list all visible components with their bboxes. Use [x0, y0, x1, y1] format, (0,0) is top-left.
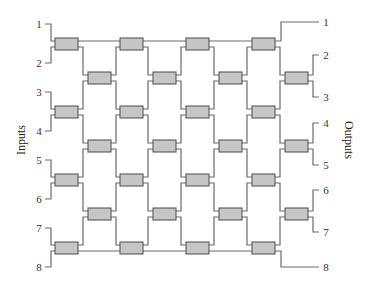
link-wire — [78, 183, 88, 211]
switching-network-diagram: 1234567812345678 Inputs Outputs — [0, 0, 373, 291]
input-wire — [45, 251, 55, 267]
link-wire — [111, 115, 120, 143]
output-wire — [308, 81, 319, 97]
link-wire — [111, 217, 120, 245]
input-wire — [45, 183, 55, 199]
link-wire — [209, 115, 219, 143]
switch-box — [285, 208, 308, 220]
input-wire — [45, 160, 55, 177]
wires — [45, 22, 319, 267]
output-label: 1 — [323, 16, 329, 28]
output-wire — [308, 217, 319, 232]
output-wire — [275, 22, 319, 41]
output-label: 4 — [323, 117, 329, 129]
input-wire — [45, 24, 55, 41]
input-wire — [45, 115, 55, 131]
link-wire — [209, 149, 219, 177]
input-wire — [45, 92, 55, 109]
output-label: 7 — [323, 226, 329, 238]
link-wire — [143, 217, 153, 245]
link-wire — [242, 81, 252, 109]
switch-box — [252, 174, 275, 186]
switch-box — [186, 38, 209, 50]
switch-box — [186, 242, 209, 254]
output-wire — [275, 251, 319, 267]
output-label: 3 — [323, 91, 329, 103]
link-wire — [143, 115, 153, 143]
link-wire — [242, 183, 252, 211]
switch-box — [88, 208, 111, 220]
link-wire — [143, 47, 153, 75]
link-wire — [242, 115, 252, 143]
switch-box — [55, 38, 78, 50]
link-wire — [176, 115, 186, 143]
link-wire — [78, 115, 88, 143]
link-wire — [275, 81, 285, 109]
outputs-axis-label: Outputs — [342, 121, 356, 159]
link-wire — [176, 81, 186, 109]
input-label: 5 — [36, 154, 42, 166]
switch-box — [88, 72, 111, 84]
input-label: 7 — [36, 222, 42, 234]
switch-box — [55, 242, 78, 254]
link-wire — [242, 217, 252, 245]
switch-box — [88, 140, 111, 152]
input-label: 1 — [36, 18, 42, 30]
output-label: 5 — [323, 159, 329, 171]
link-wire — [78, 149, 88, 177]
link-wire — [111, 81, 120, 109]
inputs-axis-label: Inputs — [14, 125, 28, 155]
link-wire — [209, 81, 219, 109]
switch-box — [285, 72, 308, 84]
switch-box — [252, 106, 275, 118]
output-label: 6 — [323, 184, 329, 196]
link-wire — [275, 115, 285, 143]
input-label: 6 — [36, 193, 42, 205]
link-wire — [143, 149, 153, 177]
input-wire — [45, 47, 55, 63]
output-wire — [308, 55, 319, 75]
output-label: 2 — [323, 49, 329, 61]
link-wire — [209, 47, 219, 75]
link-wire — [111, 47, 120, 75]
switch-box — [153, 140, 176, 152]
input-label: 2 — [36, 57, 42, 69]
switch-box — [219, 208, 242, 220]
link-wire — [176, 217, 186, 245]
switch-box — [55, 106, 78, 118]
switch-box — [186, 106, 209, 118]
switch-box — [153, 208, 176, 220]
link-wire — [111, 183, 120, 211]
link-wire — [176, 183, 186, 211]
switch-box — [285, 140, 308, 152]
output-wire — [308, 123, 319, 143]
link-wire — [275, 47, 285, 75]
link-wire — [275, 183, 285, 211]
switch-box — [252, 242, 275, 254]
input-wire — [45, 228, 55, 245]
switch-box — [186, 174, 209, 186]
switch-box — [120, 174, 143, 186]
link-wire — [209, 217, 219, 245]
input-label: 3 — [36, 86, 42, 98]
output-label: 8 — [323, 261, 329, 273]
link-wire — [143, 183, 153, 211]
switch-box — [252, 38, 275, 50]
switch-box — [120, 242, 143, 254]
link-wire — [176, 47, 186, 75]
switch-box — [219, 140, 242, 152]
switch-box — [55, 174, 78, 186]
link-wire — [242, 47, 252, 75]
link-wire — [78, 47, 88, 75]
switch-box — [153, 72, 176, 84]
switch-box — [219, 72, 242, 84]
link-wire — [78, 81, 88, 109]
link-wire — [275, 217, 285, 245]
link-wire — [78, 217, 88, 245]
link-wire — [111, 149, 120, 177]
switch-box — [120, 106, 143, 118]
input-label: 8 — [36, 261, 42, 273]
link-wire — [143, 81, 153, 109]
input-label: 4 — [36, 125, 42, 137]
link-wire — [209, 183, 219, 211]
